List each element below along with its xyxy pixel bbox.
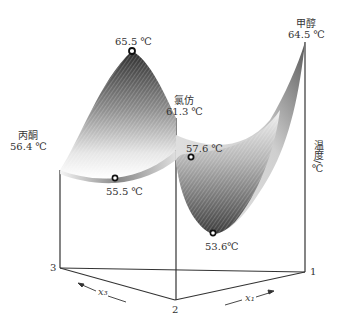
global-min-marker xyxy=(210,230,215,235)
corner-label-1: 1 xyxy=(310,266,316,277)
chloroform-temp: 61.3 ℃ xyxy=(166,106,203,117)
corner-label-2: 2 xyxy=(172,304,178,315)
edge-min-marker xyxy=(188,154,193,159)
max-point-marker xyxy=(129,48,135,54)
temperature-axis-label: 温度/℃ xyxy=(312,140,323,174)
corner-label-3: 3 xyxy=(50,262,56,273)
surface-plot-canvas xyxy=(0,0,339,326)
acetone-temp: 56.4 ℃ xyxy=(10,141,47,152)
ternary-surface-diagram: 丙酮 56.4 ℃ 氯仿 61.3 ℃ 甲醇 64.5 ℃ 65.5 ℃ 55.… xyxy=(0,0,339,326)
global-min-label: 53.6℃ xyxy=(205,241,238,252)
max-point-label: 65.5 ℃ xyxy=(115,36,152,47)
component-label-methanol: 甲醇 64.5 ℃ xyxy=(288,18,325,40)
x3-axis-label: x₃ xyxy=(98,286,108,297)
methanol-name: 甲醇 xyxy=(288,18,325,29)
methanol-temp: 64.5 ℃ xyxy=(288,29,325,40)
x1-axis-label: x₁ xyxy=(245,292,255,303)
edge-min-label: 57.6 ℃ xyxy=(186,143,223,154)
chloroform-name: 氯仿 xyxy=(166,95,203,106)
saddle-point-marker xyxy=(112,175,117,180)
component-label-chloroform: 氯仿 61.3 ℃ xyxy=(166,95,203,117)
component-label-acetone: 丙酮 56.4 ℃ xyxy=(10,130,47,152)
acetone-name: 丙酮 xyxy=(10,130,47,141)
saddle-point-label: 55.5 ℃ xyxy=(106,186,143,197)
